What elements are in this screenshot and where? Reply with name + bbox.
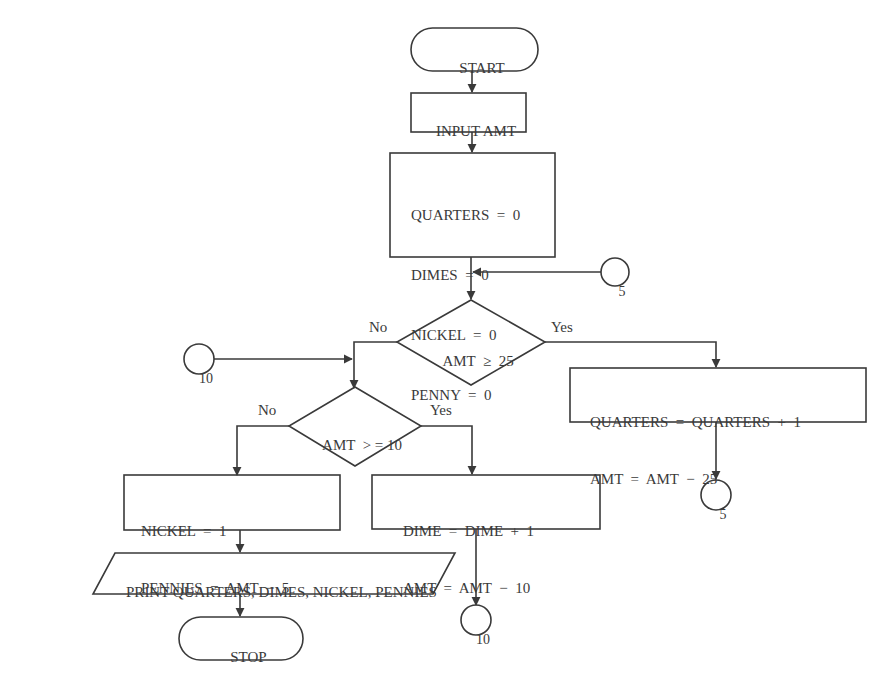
- flowchart-canvas: START INPUT AMT QUARTERS = 0 DIMES = 0 N…: [0, 0, 881, 690]
- start-label: START: [459, 60, 504, 76]
- quarters-update-line-1: QUARTERS = QUARTERS + 1: [590, 413, 801, 432]
- init-box: QUARTERS = 0 DIMES = 0 NICKEL = 0 PENNY …: [411, 165, 520, 445]
- decision-25-no-label: No: [369, 318, 387, 337]
- connector-5-out: 5: [701, 486, 731, 543]
- dime-line-1: DIME = DIME + 1: [403, 522, 534, 541]
- init-line-quarters: QUARTERS = 0: [411, 205, 520, 225]
- stop-terminal: STOP: [179, 629, 303, 686]
- connector-10-out-label: 10: [476, 632, 490, 647]
- connector-5-in-label: 5: [619, 284, 626, 299]
- decision-10-label: AMT > = 10: [322, 437, 402, 453]
- start-terminal: START: [411, 40, 538, 97]
- decision-10: AMT > = 10: [289, 417, 421, 474]
- quarters-update-box: QUARTERS = QUARTERS + 1 AMT = AMT − 25: [590, 375, 801, 527]
- connector-5-in: 5: [601, 263, 629, 320]
- decision-10-yes-label: Yes: [430, 401, 452, 420]
- print-label: PRINT QUARTERS, DIMES, NICKEL, PENNIES: [126, 584, 437, 600]
- stop-label: STOP: [230, 649, 266, 665]
- connector-5-out-label: 5: [720, 507, 727, 522]
- init-line-dimes: DIMES = 0: [411, 265, 520, 285]
- input-box: INPUT AMT: [411, 103, 526, 160]
- decision-25-yes-label: Yes: [551, 318, 573, 337]
- nickel-line-1: NICKEL = 1: [141, 522, 289, 541]
- connector-10-in: 10: [184, 350, 214, 407]
- connector-10-in-label: 10: [199, 371, 213, 386]
- decision-10-no-label: No: [258, 401, 276, 420]
- decision-25-label: AMT ≥ 25: [442, 353, 513, 369]
- decision-25: AMT ≥ 25: [397, 333, 545, 390]
- connector-10-out: 10: [461, 611, 491, 668]
- quarters-update-line-2: AMT = AMT − 25: [590, 470, 801, 489]
- input-label: INPUT AMT: [436, 123, 516, 139]
- print-io: PRINT QUARTERS, DIMES, NICKEL, PENNIES: [93, 564, 455, 621]
